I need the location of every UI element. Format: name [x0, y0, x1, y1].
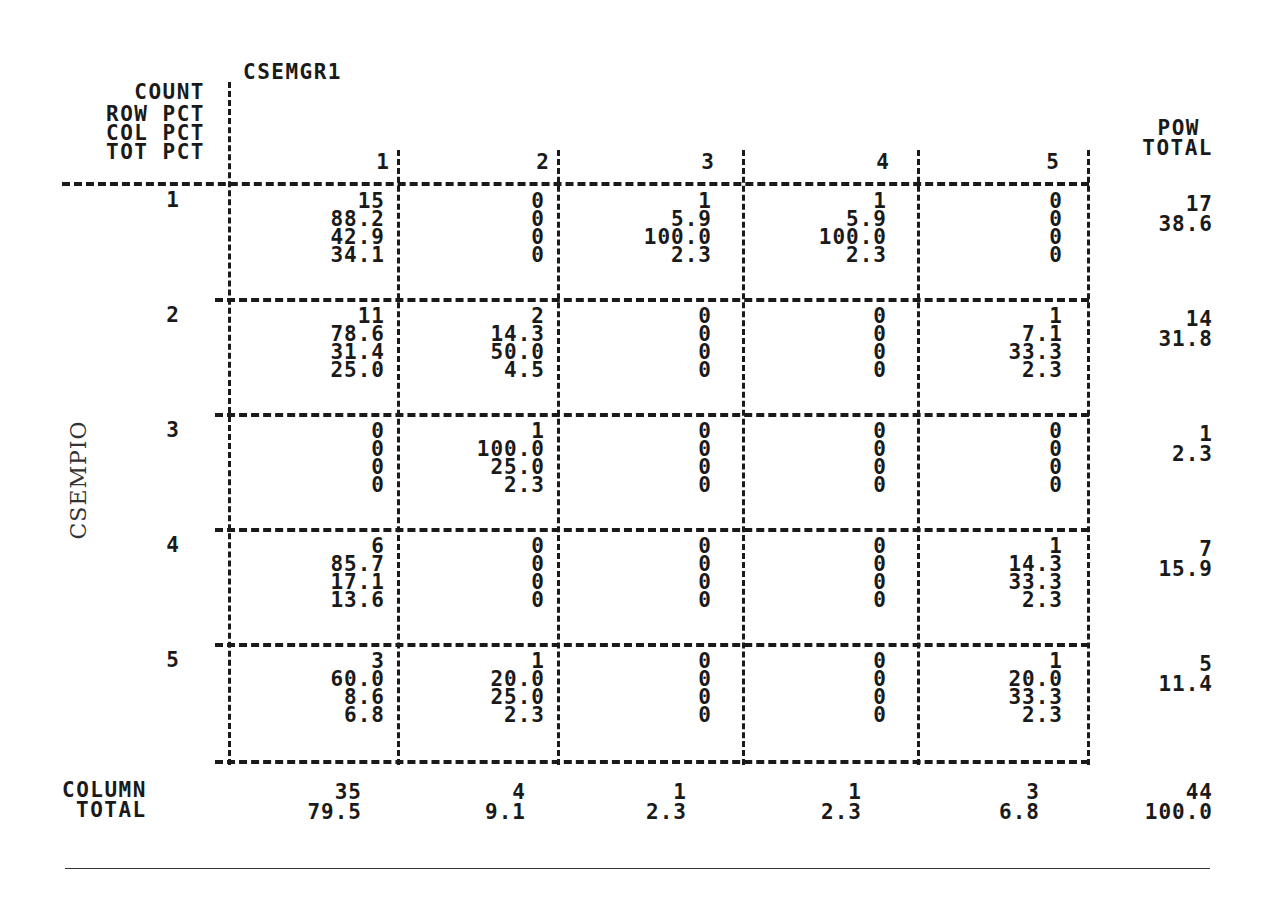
cell-row-pct: 0 — [425, 555, 545, 573]
cell-tot-pct: 0 — [592, 476, 712, 494]
cell-count: 0 — [767, 422, 887, 440]
cell-count: 0 — [425, 192, 545, 210]
column-variable-label: CSEMGR1 — [243, 62, 342, 83]
cell-col-pct: 0 — [592, 458, 712, 476]
column-separator — [917, 150, 920, 765]
cell-tot-pct: 2.3 — [943, 361, 1063, 379]
row-separator — [215, 528, 1089, 532]
column-label: 5 — [930, 152, 1060, 173]
row-total-pct: 2.3 — [1100, 444, 1213, 465]
cell-tot-pct: 13.6 — [265, 591, 385, 609]
cell-row-pct: 0 — [425, 210, 545, 228]
row-label: 1 — [120, 190, 180, 211]
row-total-header-line2: TOTAL — [1100, 138, 1213, 159]
row-total-pct: 31.8 — [1100, 329, 1213, 350]
cell-row-pct: 0 — [767, 440, 887, 458]
cell-tot-pct: 0 — [425, 246, 545, 264]
cell-row-pct: 0 — [592, 325, 712, 343]
cell-tot-pct: 2.3 — [425, 706, 545, 724]
column-total-pct: 79.5 — [242, 802, 362, 823]
legend-count: COUNT — [60, 82, 205, 103]
cell-tot-pct: 0 — [592, 361, 712, 379]
cell-tot-pct: 0 — [943, 476, 1063, 494]
cell-col-pct: 0 — [943, 228, 1063, 246]
cell-count: 0 — [943, 192, 1063, 210]
column-label: 1 — [250, 152, 390, 173]
cell-col-pct: 0 — [592, 573, 712, 591]
column-label: 3 — [580, 152, 715, 173]
column-separator — [397, 150, 400, 765]
cell-tot-pct: 2.3 — [943, 706, 1063, 724]
cell-count: 0 — [592, 422, 712, 440]
cell-tot-pct: 0 — [592, 591, 712, 609]
column-label: 4 — [760, 152, 890, 173]
row-separator — [215, 413, 1089, 417]
column-total-pct: 6.8 — [920, 802, 1040, 823]
cell-col-pct: 0 — [767, 343, 887, 361]
grand-total-pct: 100.0 — [1100, 802, 1213, 823]
row-separator — [215, 760, 1089, 764]
cell-tot-pct: 0 — [265, 476, 385, 494]
cell-count: 0 — [943, 422, 1063, 440]
row-separator — [215, 643, 1089, 647]
row-label: 2 — [120, 305, 180, 326]
cell-tot-pct: 0 — [767, 706, 887, 724]
cell-row-pct: 0 — [943, 440, 1063, 458]
cell-tot-pct: 2.3 — [767, 246, 887, 264]
cell-col-pct: 0 — [425, 573, 545, 591]
cell-col-pct: 0 — [592, 343, 712, 361]
cell-count: 0 — [767, 537, 887, 555]
column-label: 2 — [410, 152, 550, 173]
header-separator — [62, 182, 1089, 186]
cell-col-pct: 0 — [425, 228, 545, 246]
row-label: 3 — [120, 420, 180, 441]
cell-tot-pct: 2.3 — [592, 246, 712, 264]
column-separator-left — [228, 82, 231, 765]
cell-tot-pct: 0 — [767, 361, 887, 379]
cell-tot-pct: 0 — [425, 591, 545, 609]
cell-tot-pct: 2.3 — [425, 476, 545, 494]
column-total-label-line2: TOTAL — [76, 800, 147, 821]
cell-tot-pct: 4.5 — [425, 361, 545, 379]
cell-row-pct: 0 — [592, 555, 712, 573]
cell-count: 0 — [592, 652, 712, 670]
cell-row-pct: 0 — [943, 210, 1063, 228]
legend-tot-pct: TOT PCT — [40, 142, 205, 163]
cell-row-pct: 0 — [592, 670, 712, 688]
cell-tot-pct: 6.8 — [265, 706, 385, 724]
column-total-pct: 2.3 — [567, 802, 687, 823]
column-total-pct: 9.1 — [406, 802, 526, 823]
cell-col-pct: 0 — [592, 688, 712, 706]
row-total-pct: 15.9 — [1100, 559, 1213, 580]
cell-count: 0 — [425, 537, 545, 555]
cell-count: 0 — [592, 307, 712, 325]
cell-col-pct: 0 — [767, 688, 887, 706]
bottom-rule — [65, 868, 1210, 869]
cell-row-pct: 0 — [767, 670, 887, 688]
row-total-pct: 38.6 — [1100, 214, 1213, 235]
row-variable-label: CSEMPIO — [66, 420, 91, 539]
cell-row-pct: 0 — [767, 555, 887, 573]
column-separator — [557, 150, 560, 765]
cell-col-pct: 0 — [943, 458, 1063, 476]
cell-count: 0 — [767, 652, 887, 670]
cell-tot-pct: 2.3 — [943, 591, 1063, 609]
cell-row-pct: 0 — [767, 325, 887, 343]
row-label: 5 — [120, 650, 180, 671]
cell-tot-pct: 0 — [592, 706, 712, 724]
row-label: 4 — [120, 535, 180, 556]
cell-row-pct: 0 — [265, 440, 385, 458]
cell-tot-pct: 0 — [943, 246, 1063, 264]
cell-count: 0 — [767, 307, 887, 325]
cell-row-pct: 0 — [592, 440, 712, 458]
cell-col-pct: 0 — [767, 458, 887, 476]
cell-count: 0 — [265, 422, 385, 440]
cell-tot-pct: 34.1 — [265, 246, 385, 264]
column-total-pct: 2.3 — [742, 802, 862, 823]
cell-tot-pct: 0 — [767, 476, 887, 494]
cell-col-pct: 0 — [767, 573, 887, 591]
cell-tot-pct: 25.0 — [265, 361, 385, 379]
cell-tot-pct: 0 — [767, 591, 887, 609]
column-separator — [742, 150, 745, 765]
cell-col-pct: 0 — [265, 458, 385, 476]
